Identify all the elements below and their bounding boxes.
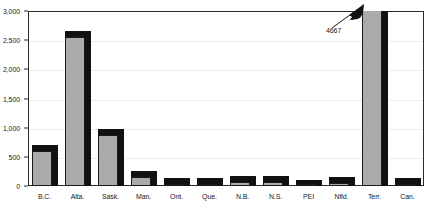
bar-front-face xyxy=(32,151,52,186)
bar xyxy=(395,178,421,186)
bar xyxy=(32,145,58,186)
y-axis-tick-label: 500 xyxy=(9,153,20,160)
bar xyxy=(65,31,91,186)
bars-layer xyxy=(28,11,424,186)
x-axis-tick-label: N.B. xyxy=(236,193,249,200)
bar xyxy=(329,177,355,186)
y-axis-tick-label: 1,500 xyxy=(3,95,20,102)
y-axis-tick-label: 1,000 xyxy=(3,124,20,131)
bar-side-face xyxy=(118,135,124,186)
x-axis-tick-label: Alta. xyxy=(71,193,85,200)
bar xyxy=(98,129,124,186)
y-axis-tick-label: 3,000 xyxy=(3,8,20,15)
bar-side-face xyxy=(52,151,58,186)
y-axis-tick-label: 0 xyxy=(16,183,20,190)
x-axis-tick-label: Terr. xyxy=(368,193,381,200)
x-axis-tick-label: Ont. xyxy=(170,193,183,200)
x-axis-tick-label: Man. xyxy=(136,193,151,200)
y-axis: 05001,0001,5002,0002,5003,000 xyxy=(0,0,28,211)
bar xyxy=(197,178,223,186)
bar-side-face xyxy=(151,177,157,186)
bar-front-face xyxy=(98,135,118,186)
bar xyxy=(164,178,190,186)
bar-front-face xyxy=(65,37,85,186)
x-axis-tick-label: N.S. xyxy=(269,193,282,200)
bar xyxy=(263,176,289,186)
bar-side-face xyxy=(85,37,91,186)
bar-side-face xyxy=(382,11,388,186)
bar-front-face xyxy=(362,11,382,186)
x-axis-tick-label: Can. xyxy=(400,193,414,200)
bar-chart: 05001,0001,5002,0002,5003,000 B.C.Alta.S… xyxy=(0,0,437,211)
bar xyxy=(131,171,157,186)
y-axis-tick-label: 2,500 xyxy=(3,37,20,44)
x-axis-tick-label: B.C. xyxy=(38,193,51,200)
x-axis-tick-label: Que. xyxy=(202,193,217,200)
y-axis-tick-label: 2,000 xyxy=(3,66,20,73)
x-axis-tick-label: Nfld. xyxy=(335,193,349,200)
x-axis: B.C.Alta.Sask.Man.Ont.Que.N.B.N.S.PEINfl… xyxy=(28,186,424,211)
x-axis-tick-label: Sask. xyxy=(102,193,119,200)
bar xyxy=(230,176,256,186)
bar-front-face xyxy=(131,177,151,186)
x-axis-tick-label: PEI xyxy=(303,193,314,200)
bar xyxy=(362,11,388,186)
